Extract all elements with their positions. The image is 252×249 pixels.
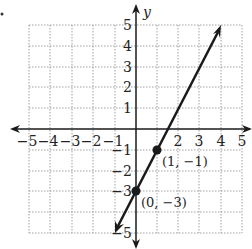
x-axis: [10, 125, 252, 133]
y-tick: 4: [123, 38, 132, 54]
y-tick: 1: [123, 100, 132, 116]
x-tick: 4: [217, 133, 226, 149]
x-tick: 5: [238, 133, 247, 149]
x-tick: −2: [81, 133, 102, 149]
y-tick: −5: [111, 225, 132, 241]
point-1-neg1: [153, 146, 162, 155]
x-tick: −3: [60, 133, 81, 149]
y-tick: −1: [111, 142, 132, 158]
y-tick: −2: [111, 163, 132, 179]
y-axis-label: y: [142, 4, 152, 20]
y-tick: 2: [123, 79, 132, 95]
x-tick: 2: [174, 133, 183, 149]
y-tick: 5: [123, 17, 132, 33]
y-tick: −3: [111, 183, 132, 199]
point-0-neg3: [132, 187, 141, 196]
point-label: (1, −1): [162, 154, 208, 169]
bullet-mark: [1, 13, 4, 16]
y-tick: 3: [123, 59, 132, 75]
x-tick: 3: [195, 133, 204, 149]
coordinate-graph: y −5 −4 −3 −2 −1 2 3 4 5 5 4 3 2 1 −1 −2…: [0, 0, 252, 249]
x-tick: −5: [17, 133, 38, 149]
x-tick: −4: [38, 133, 59, 149]
point-label: (0, −3): [141, 195, 187, 210]
